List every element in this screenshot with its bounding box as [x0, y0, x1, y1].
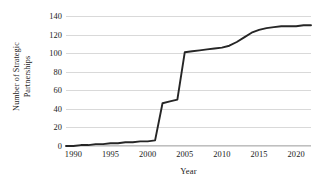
data-series-line — [66, 16, 311, 146]
y-axis-title-line-1: Number of Strategic — [12, 42, 23, 111]
x-axis-tick-label: 1990 — [65, 150, 82, 160]
x-axis-tick-labels: 1990199520002005201020152020 — [66, 150, 311, 164]
gridline — [66, 146, 311, 147]
y-axis-tick-labels: 020406080100120140 — [34, 10, 62, 150]
plot-area — [66, 16, 311, 146]
x-axis-tick-label: 2000 — [139, 150, 156, 160]
x-axis-title: Year — [66, 166, 311, 177]
x-axis-tick-label: 1995 — [102, 150, 119, 160]
y-axis-tick-label: 0 — [34, 142, 62, 151]
y-axis-tick-label: 140 — [34, 12, 62, 21]
line-chart: Number of Strategic Partnerships 0204060… — [0, 0, 327, 186]
x-axis-tick-label: 2015 — [250, 150, 267, 160]
series-polyline — [66, 25, 311, 146]
x-axis-tick-label: 2005 — [176, 150, 193, 160]
y-axis-tick-label: 120 — [34, 30, 62, 39]
x-axis-tick-label: 2010 — [213, 150, 230, 160]
y-axis-tick-label: 80 — [34, 67, 62, 76]
y-axis-title: Number of Strategic Partnerships — [8, 0, 36, 152]
y-axis-tick-label: 100 — [34, 49, 62, 58]
y-axis-title-line-2: Partnerships — [22, 42, 33, 111]
y-axis-title-text: Number of Strategic Partnerships — [12, 42, 33, 111]
x-axis-tick-label: 2020 — [288, 150, 305, 160]
y-axis-tick-label: 20 — [34, 123, 62, 132]
y-axis-tick-label: 40 — [34, 104, 62, 113]
y-axis-tick-label: 60 — [34, 86, 62, 95]
